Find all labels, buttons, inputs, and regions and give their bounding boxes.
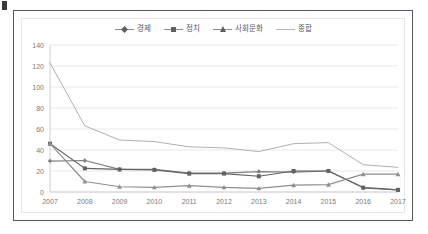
- x-axis-tick-label: 2008: [77, 198, 93, 205]
- data-point-marker: [292, 169, 296, 173]
- data-point-marker: [396, 188, 400, 192]
- y-axis-tick-label: 140: [32, 42, 44, 49]
- chart-plot-frame: 경제 정치 사회문화: [21, 18, 405, 213]
- series-line-1: [50, 144, 398, 190]
- corner-artifact: [2, 1, 7, 10]
- x-axis-tick-label: 2015: [321, 198, 337, 205]
- data-point-marker: [118, 167, 122, 171]
- y-axis-tick-label: 80: [36, 105, 44, 112]
- data-point-marker: [326, 169, 330, 173]
- data-point-marker: [257, 174, 261, 178]
- chart-plot-area: 0204060801001201402007200820092010201120…: [22, 19, 404, 212]
- data-point-marker: [83, 166, 87, 170]
- x-axis-tick-label: 2013: [251, 198, 267, 205]
- data-point-marker: [257, 169, 262, 174]
- x-axis-tick-label: 2014: [286, 198, 302, 205]
- x-axis-tick-label: 2017: [390, 198, 406, 205]
- series-line-3: [50, 63, 398, 167]
- x-axis-tick-label: 2007: [42, 198, 58, 205]
- y-axis-tick-label: 60: [36, 126, 44, 133]
- y-axis-tick-label: 20: [36, 168, 44, 175]
- y-axis-tick-label: 0: [40, 189, 44, 196]
- data-point-marker: [48, 159, 53, 164]
- data-point-marker: [361, 186, 365, 190]
- y-axis-tick-label: 120: [32, 63, 44, 70]
- data-point-marker: [83, 158, 88, 163]
- data-point-marker: [222, 172, 226, 176]
- x-axis-tick-label: 2011: [182, 198, 197, 205]
- x-axis-tick-label: 2012: [216, 198, 232, 205]
- line-chart-svg: 0204060801001201402007200820092010201120…: [22, 19, 408, 216]
- x-axis-tick-label: 2010: [147, 198, 163, 205]
- x-axis-tick-label: 2009: [112, 198, 128, 205]
- data-point-marker: [187, 172, 191, 176]
- x-axis-tick-label: 2016: [355, 198, 371, 205]
- y-axis-tick-label: 100: [32, 84, 44, 91]
- chart-outer-frame: 경제 정치 사회문화: [13, 10, 413, 221]
- data-point-marker: [152, 168, 156, 172]
- screenshot-root: 경제 정치 사회문화: [0, 0, 428, 234]
- y-axis-tick-label: 40: [36, 147, 44, 154]
